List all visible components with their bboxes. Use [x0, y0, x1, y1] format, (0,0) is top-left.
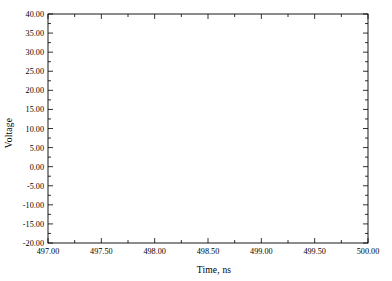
x-tick-label: 498.50 — [197, 247, 220, 256]
y-tick-label: 30.00 — [26, 48, 44, 57]
x-tick-label: 500.00 — [357, 247, 380, 256]
y-tick-label: -15.00 — [23, 220, 44, 229]
y-tick-label: -5.00 — [27, 182, 44, 191]
y-tick-label: 35.00 — [26, 29, 44, 38]
x-axis-title: Time, ns — [197, 265, 232, 275]
y-tick-label: 40.00 — [26, 10, 44, 19]
y-tick-label: -10.00 — [23, 201, 44, 210]
voltage-vs-time-chart: 497.00497.50498.00498.50499.00499.50500.… — [0, 0, 392, 281]
y-tick-label: 5.00 — [30, 144, 44, 153]
x-tick-label: 498.00 — [143, 247, 166, 256]
x-tick-label: 499.50 — [303, 247, 326, 256]
y-tick-label: 25.00 — [26, 67, 44, 76]
x-tick-label: 499.00 — [250, 247, 273, 256]
y-tick-label: 10.00 — [26, 125, 44, 134]
x-tick-label: 497.50 — [90, 247, 113, 256]
y-tick-label: -20.00 — [23, 239, 44, 248]
chart-background — [0, 0, 392, 281]
x-tick-label: 497.00 — [37, 247, 60, 256]
y-tick-label: 15.00 — [26, 105, 44, 114]
y-tick-label: 0.00 — [30, 163, 44, 172]
y-axis-title: Voltage — [4, 118, 14, 148]
y-tick-label: 20.00 — [26, 86, 44, 95]
